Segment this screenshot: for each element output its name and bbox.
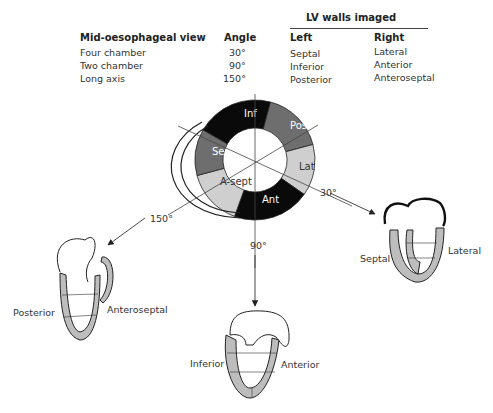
four-chamber-heart — [385, 199, 445, 282]
segment-label-ant: Ant — [262, 194, 279, 205]
long-axis-heart — [57, 238, 113, 340]
four-chamber-right-label: Lateral — [448, 245, 481, 256]
angle-label-150: 150° — [150, 213, 173, 224]
long-axis-right-label: Anteroseptal — [107, 304, 168, 315]
two-chamber-heart — [225, 311, 289, 398]
angle-label-30: 30° — [320, 187, 337, 198]
four-chamber-left-label: Septal — [360, 253, 390, 264]
segment-label-lat: Lat — [299, 161, 315, 172]
segment-label-sept: Sept — [212, 146, 235, 157]
arrow-to-long-axis — [108, 218, 145, 245]
segment-label-a-sept: A-sept — [220, 176, 252, 187]
diagram-canvas: InfPostLatAntA-septSept 30° 90° 150° Pos… — [0, 0, 493, 413]
angle-label-90: 90° — [250, 240, 267, 251]
long-axis-left-label: Posterior — [13, 307, 55, 318]
two-chamber-right-label: Anterior — [281, 359, 319, 370]
arrow-to-four-chamber — [330, 193, 375, 214]
two-chamber-left-label: Inferior — [190, 358, 224, 369]
segment-label-post: Post — [290, 120, 311, 131]
